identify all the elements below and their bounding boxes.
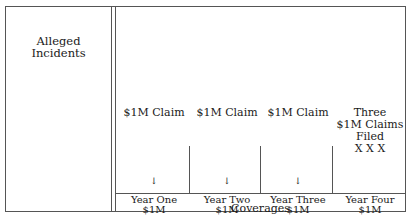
claim-label-year-four: Three $1M Claims Filed X X X [334, 107, 406, 155]
claim-label-year-one: $1M Claim [118, 107, 190, 119]
coverage-panel: $1M Claim ↓ Year One $1M $1M Claim ↓ Yea… [115, 7, 405, 211]
alleged-incidents-panel: Alleged Incidents [6, 7, 112, 211]
arrow-down-icon: ↓ [118, 177, 190, 186]
coverage-baseline [116, 193, 405, 194]
arrow-down-icon: ↓ [262, 177, 334, 186]
coverages-label: Coverages [116, 203, 405, 215]
column-divider [332, 146, 333, 194]
column-divider [189, 146, 190, 194]
column-divider [260, 146, 261, 194]
claim-label-year-three: $1M Claim [262, 107, 334, 119]
claim-label-year-two: $1M Claim [191, 107, 263, 119]
alleged-incidents-label: Alleged Incidents [6, 35, 111, 59]
diagram-frame: Alleged Incidents $1M Claim ↓ Year One $… [5, 6, 406, 212]
arrow-down-icon: ↓ [191, 177, 263, 186]
label-line-2: Incidents [6, 47, 111, 59]
claim-marks: X X X [334, 143, 406, 155]
